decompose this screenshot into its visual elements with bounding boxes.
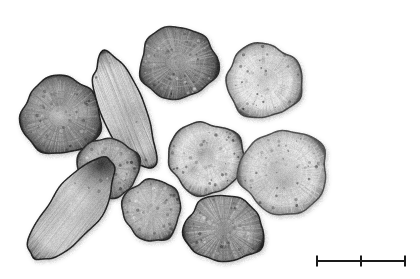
scale-bar xyxy=(317,256,405,267)
scale-bar-layer xyxy=(0,0,420,279)
figure-plate xyxy=(0,0,420,279)
